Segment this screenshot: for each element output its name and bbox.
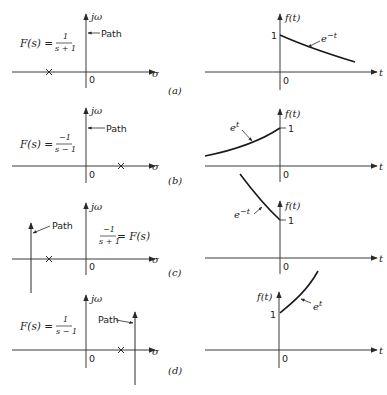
exp-curve xyxy=(205,128,280,156)
origin-label: 0 xyxy=(283,169,289,180)
real-axis-label: σ xyxy=(152,346,160,357)
denominator: s − 1 xyxy=(55,145,76,154)
one-label: 1 xyxy=(270,309,276,320)
f-axis-label: f(t) xyxy=(284,200,301,211)
time-plot-b: f(t) t 0 1 et xyxy=(205,108,384,182)
f-axis-label: f(t) xyxy=(284,12,301,23)
numerator: 1 xyxy=(63,32,68,41)
time-plot-d: f(t) t 0 1 et xyxy=(205,271,384,368)
origin-label: 0 xyxy=(89,74,95,85)
curve-label-arrow xyxy=(254,207,262,214)
imag-axis-label: jω xyxy=(89,105,102,116)
t-axis-label: t xyxy=(379,67,384,78)
curve-label: et xyxy=(230,120,240,133)
function-lhs: F(s) = xyxy=(19,37,53,49)
panel-label: (b) xyxy=(168,175,182,186)
splane-a: jω σ 0 Path F(s) = 1 s + 1 (a) xyxy=(12,11,182,96)
function-rhs: = F(s) xyxy=(117,230,150,242)
transfer-function: −1 s + 1 = F(s) xyxy=(99,225,150,246)
curve-label-exp: −t xyxy=(240,207,251,216)
time-plot-a: f(t) t 0 1 e−t xyxy=(205,12,384,90)
curve-label-arrow xyxy=(242,130,252,141)
path-label: Path xyxy=(98,314,119,325)
f-axis-label: f(t) xyxy=(284,108,301,119)
real-axis-label: σ xyxy=(152,68,160,79)
curve-label-arrow xyxy=(301,299,311,303)
numerator: −1 xyxy=(59,133,71,142)
transfer-function: F(s) = 1 s − 1 xyxy=(19,315,77,336)
splane-d: jω σ 0 Path F(s) = 1 s − 1 (d) xyxy=(12,293,182,385)
f-axis-label: f(t) xyxy=(256,291,273,302)
origin-label: 0 xyxy=(283,261,289,272)
path-label: Path xyxy=(52,220,73,231)
panel-c: jω σ 0 Path −1 s + 1 = F(s) (c) f(t) t 0 xyxy=(12,174,384,293)
panel-b: jω σ 0 Path F(s) = −1 s − 1 (b) f(t) t 0… xyxy=(12,105,384,186)
function-lhs: F(s) = xyxy=(19,138,53,150)
imag-axis-label: jω xyxy=(89,11,102,22)
denominator: s − 1 xyxy=(56,327,77,336)
one-label: 1 xyxy=(288,123,294,134)
numerator: −1 xyxy=(103,225,115,234)
t-axis-label: t xyxy=(379,345,384,356)
curve-label-exp: −t xyxy=(327,31,338,40)
panel-label: (a) xyxy=(168,85,182,96)
numerator: 1 xyxy=(63,315,68,324)
curve-label: et xyxy=(313,299,323,312)
transfer-function: F(s) = 1 s + 1 xyxy=(19,32,76,53)
imag-axis-label: jω xyxy=(89,201,102,212)
origin-label: 0 xyxy=(89,169,95,180)
one-label: 1 xyxy=(271,30,277,41)
curve-label-exp: t xyxy=(319,299,323,308)
function-lhs: F(s) = xyxy=(19,320,53,332)
panel-label: (d) xyxy=(168,365,182,376)
panel-a: jω σ 0 Path F(s) = 1 s + 1 (a) f(t) t 0 … xyxy=(12,11,384,96)
time-plot-c: f(t) t 0 1 e−t xyxy=(205,174,384,274)
splane-c: jω σ 0 Path −1 s + 1 = F(s) (c) xyxy=(12,201,182,293)
panel-label: (c) xyxy=(168,267,182,278)
one-label: 1 xyxy=(288,215,294,226)
path-label: Path xyxy=(106,123,127,134)
t-axis-label: t xyxy=(379,161,384,172)
curve-label-exp: t xyxy=(236,120,240,129)
curve-label: e−t xyxy=(234,207,251,220)
curve-label: e−t xyxy=(321,31,338,44)
transfer-function: F(s) = −1 s − 1 xyxy=(19,133,76,154)
curve-label-arrow xyxy=(308,41,320,47)
denominator: s + 1 xyxy=(55,44,76,53)
origin-label: 0 xyxy=(89,353,95,364)
real-axis-label: σ xyxy=(152,161,160,172)
real-axis-label: σ xyxy=(152,254,160,265)
origin-label: 0 xyxy=(283,75,289,86)
origin-label: 0 xyxy=(89,261,95,272)
path-arrow xyxy=(33,226,50,233)
t-axis-label: t xyxy=(379,253,384,264)
origin-label: 0 xyxy=(282,353,288,364)
panel-d: jω σ 0 Path F(s) = 1 s − 1 (d) f(t) t 0 … xyxy=(12,271,384,385)
imag-axis-label: jω xyxy=(89,293,102,304)
path-label: Path xyxy=(101,28,122,39)
splane-b: jω σ 0 Path F(s) = −1 s − 1 (b) xyxy=(12,105,182,186)
laplace-diagram: jω σ 0 Path F(s) = 1 s + 1 (a) f(t) t 0 … xyxy=(0,0,387,395)
exp-curve xyxy=(280,35,355,62)
